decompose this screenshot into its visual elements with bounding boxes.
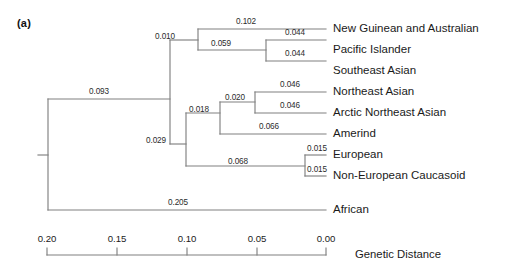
axis-tick-label-020: 0.20 <box>38 234 57 244</box>
branch-length-0059: 0.059 <box>211 40 231 48</box>
leaf-label-pacific-islander: Pacific Islander <box>333 44 411 55</box>
leaf-label-southeast-asian: Southeast Asian <box>333 65 416 76</box>
branch-length-0046-northeast: 0.046 <box>280 81 300 89</box>
branch-length-0093: 0.093 <box>89 88 109 96</box>
branch-length-0068: 0.068 <box>228 158 248 166</box>
branch-length-0018: 0.018 <box>189 106 209 114</box>
leaf-label-arctic-northeast-asian: Arctic Northeast Asian <box>333 107 446 118</box>
axis-tick-label-015: 0.15 <box>108 234 127 244</box>
branch-length-0046-arctic: 0.046 <box>280 102 300 110</box>
phylogenetic-tree-figure: (a) <box>0 0 511 278</box>
branch-length-0020: 0.020 <box>225 94 245 102</box>
leaf-label-non-european-caucasoid: Non-European Caucasoid <box>333 170 465 181</box>
branch-length-0015-european: 0.015 <box>307 145 327 153</box>
branch-length-0102: 0.102 <box>236 18 256 26</box>
axis-tick-label-000: 0.00 <box>317 234 336 244</box>
leaf-label-european: European <box>333 149 383 160</box>
leaf-label-african: African <box>333 204 369 215</box>
axis-tick-label-005: 0.05 <box>248 234 267 244</box>
axis-title-genetic-distance: Genetic Distance <box>355 249 441 260</box>
leaf-label-amerind: Amerind <box>333 128 376 139</box>
branch-length-0029: 0.029 <box>146 137 166 145</box>
branch-length-0205: 0.205 <box>168 199 188 207</box>
branch-length-0010: 0.010 <box>155 33 175 41</box>
branch-length-0044-pacific: 0.044 <box>285 29 305 37</box>
axis-tick-label-010: 0.10 <box>178 234 197 244</box>
branch-length-0066: 0.066 <box>259 123 279 131</box>
branch-length-0015-noneuropean: 0.015 <box>307 166 327 174</box>
leaf-label-new-guinean-and-australian: New Guinean and Australian <box>333 23 479 34</box>
branch-length-0044-southeast: 0.044 <box>285 50 305 58</box>
leaf-label-northeast-asian: Northeast Asian <box>333 86 414 97</box>
